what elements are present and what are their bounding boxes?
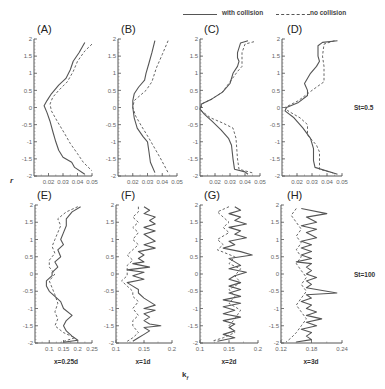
x-tick-label: 0.02 [127,179,139,185]
y-tick-label: -1 [28,306,34,312]
y-tick-label: 0.5 [190,88,199,94]
plot-panel-f: -2-1.5-1-0.500.511.520.10.150.2 [104,202,177,352]
y-tick-label: 0.5 [190,254,199,260]
panel-label-g: (G) [204,189,220,201]
x-axis-label-sub: f [186,375,188,381]
y-tick-label: -0.5 [270,122,281,128]
x-tick-label: 0.12 [275,346,287,352]
plot-panel-c: -2-1.5-1-0.500.511.520.020.030.040.05 [188,36,267,185]
series-no-collision [285,41,335,174]
x-tick-label: 0.1 [45,346,54,352]
panel-label-c: (C) [204,23,219,35]
y-tick-label: -2 [28,340,34,346]
plot-panel-h: -2-1.5-1-0.500.511.520.120.180.24 [269,202,349,352]
y-tick-label: 0.5 [25,254,34,260]
y-tick-label: 2 [277,36,281,42]
plot-panel-d: -2-1.5-1-0.500.511.520.020.030.040.05 [270,36,349,185]
y-tick-label: 1 [195,237,199,243]
y-tick-label: 2 [111,202,115,208]
x-tick-label: 0.2 [168,346,177,352]
y-tick-label: 0 [111,271,115,277]
y-tick-label: 0 [276,271,280,277]
column-label-x-2d: x=2d [222,358,237,365]
x-tick-label: 0.15 [58,346,70,352]
series-no-collision [50,44,92,171]
x-tick-label: 0.18 [306,346,318,352]
figure-canvas: -2-1.5-1-0.500.511.520.020.030.040.05-2-… [0,0,385,389]
y-tick-label: 1 [111,237,115,243]
y-tick-label: 2 [113,36,117,42]
y-tick-label: 0 [30,271,34,277]
series-no-collision [286,209,306,343]
y-tick-label: -1.5 [104,323,115,329]
series-no-collision [202,42,255,174]
panel-label-e: (E) [37,189,52,201]
y-tick-label: -1 [193,306,199,312]
column-label-x-0-25d: x=0.25d [54,358,78,365]
x-tick-label: 0.04 [72,179,84,185]
legend-dashed-label: no collision [310,9,346,16]
series-with-collision [200,41,248,175]
y-tick-label: 1 [29,70,33,76]
y-tick-label: 0 [29,105,33,111]
x-tick-label: 0.1 [196,346,205,352]
y-tick-label: -2 [27,173,33,179]
y-tick-label: -0.5 [104,288,115,294]
series-with-collision [285,41,338,175]
legend-solid-label: with collision [222,9,263,16]
series-with-collision [133,41,155,173]
x-tick-label: 0.03 [57,179,69,185]
x-tick-label: 0.02 [43,179,55,185]
y-tick-label: 0.5 [106,254,115,260]
column-label-x-1d: x=1d [136,358,151,365]
panel-label-d: (D) [287,23,302,35]
row-label-st-0-5: St=0.5 [354,104,373,111]
y-tick-label: 0 [277,105,281,111]
y-tick-label: 2 [276,202,280,208]
y-tick-label: 1.5 [271,219,280,225]
x-tick-label: 0.04 [321,179,333,185]
panel-label-a: (A) [37,23,52,35]
y-tick-label: 1.5 [106,219,115,225]
x-tick-label: 0.25 [86,346,98,352]
x-tick-label: 0.04 [239,179,251,185]
y-tick-label: 1 [277,70,281,76]
y-tick-label: 1.5 [272,53,281,59]
plot-panel-b: -2-1.5-1-0.500.511.520.020.030.040.05 [106,36,184,185]
y-tick-label: 0 [195,271,199,277]
y-tick-label: -2 [193,173,199,179]
x-tick-label: 0.24 [336,346,348,352]
y-tick-label: 2 [30,202,34,208]
series-no-collision [122,207,139,342]
y-tick-label: -1 [274,306,280,312]
panel-label-h: (H) [287,189,302,201]
y-tick-label: -2 [275,173,281,179]
x-tick-label: 0.1 [112,346,121,352]
x-tick-label: 0.02 [291,179,303,185]
y-tick-label: -0.5 [269,288,280,294]
y-tick-label: 2 [195,202,199,208]
y-tick-label: 2 [195,36,199,42]
x-tick-label: 0.02 [209,179,221,185]
y-tick-label: 1.5 [190,219,199,225]
legend-solid-swatch [183,14,217,15]
series-no-collision [133,41,168,173]
row-label-st-100: St=100 [354,271,375,278]
legend-dashed-swatch [276,14,310,15]
y-tick-label: 1 [195,70,199,76]
y-tick-label: -0.5 [23,288,34,294]
y-tick-label: 1 [276,237,280,243]
series-with-collision [217,207,252,342]
y-tick-label: 0.5 [24,88,33,94]
y-tick-label: -2 [111,173,117,179]
y-tick-label: 0.5 [271,254,280,260]
y-tick-label: 1.5 [190,53,199,59]
column-label-x-3d: x=3d [304,358,319,365]
x-axis-label: kf [182,370,188,381]
panel-label-b: (B) [121,23,136,35]
y-tick-label: -1.5 [188,156,199,162]
y-tick-label: 1 [113,70,117,76]
y-tick-label: -1.5 [22,156,33,162]
y-tick-label: -1 [109,306,115,312]
x-tick-label: 0.04 [156,179,168,185]
